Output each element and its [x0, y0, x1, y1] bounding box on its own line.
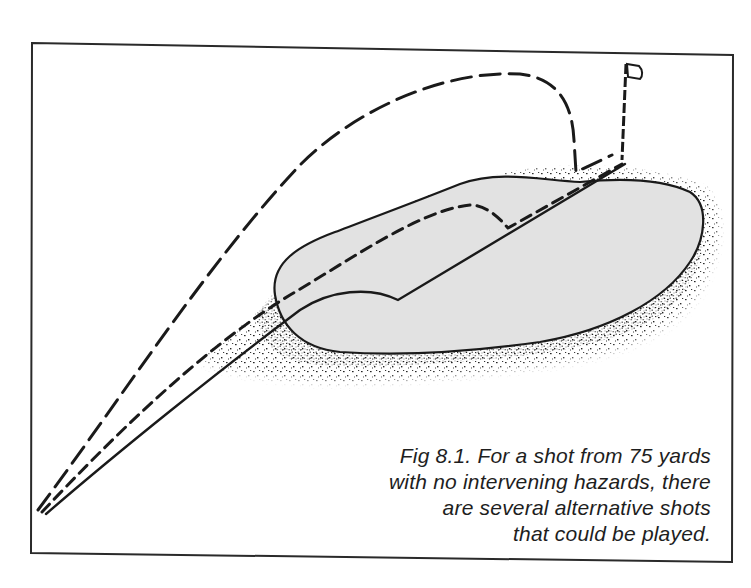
caption-line: are several alternative shots — [291, 495, 711, 521]
caption-line: that could be played. — [291, 521, 711, 547]
figure-panel: Fig 8.1. For a shot from 75 yards with n… — [0, 0, 751, 588]
caption-line: with no intervening hazards, there — [291, 469, 711, 495]
caption-line: Fig 8.1. For a shot from 75 yards — [291, 443, 711, 469]
flag-icon — [622, 64, 642, 160]
figure-caption: Fig 8.1. For a shot from 75 yards with n… — [291, 443, 711, 547]
